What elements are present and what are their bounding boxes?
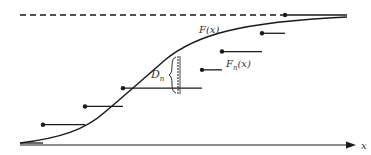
empirical-step-dot [121,86,125,90]
empirical-cdf-label-arg: (x) [237,58,251,69]
empirical-step-dot [220,49,224,53]
empirical-step-dot [83,104,87,108]
empirical-step-dot [283,13,287,17]
x-axis-arrowhead [346,142,356,149]
x-axis-label: x [361,140,367,151]
empirical-cdf-steps [41,13,347,127]
empirical-step-dot [200,68,204,72]
empirical-cdf-label: Fn(x) [225,58,251,72]
dn-label-main: D [150,68,160,81]
empirical-step-dot [260,31,264,35]
ks-statistic-diagram: x Dn F(x) Fn(x) [0,0,371,155]
empirical-step-dot [41,123,45,127]
dn-label-sub: n [160,75,165,83]
dn-label: Dn [150,68,165,83]
continuous-cdf-label: F(x) [198,24,219,35]
